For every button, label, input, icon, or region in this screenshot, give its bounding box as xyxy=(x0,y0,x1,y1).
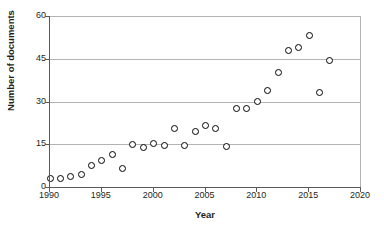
data-point xyxy=(109,151,116,158)
plot-area xyxy=(49,16,360,187)
y-tick-label-60: 60 xyxy=(6,11,46,20)
gridline-y-30 xyxy=(49,102,360,103)
y-tick-mark-60 xyxy=(45,16,49,17)
gridline-y-15 xyxy=(49,144,360,145)
data-point xyxy=(181,142,188,149)
data-point xyxy=(233,105,240,112)
y-tick-label-30: 30 xyxy=(6,97,46,106)
y-tick-label-15: 15 xyxy=(6,139,46,148)
y-axis-line xyxy=(49,16,50,187)
x-tick-label-1990: 1990 xyxy=(29,191,69,200)
x-axis-title: Year xyxy=(49,209,361,220)
x-tick-mark-2005 xyxy=(205,188,206,192)
data-point xyxy=(57,175,64,182)
data-point xyxy=(264,87,271,94)
y-tick-mark-45 xyxy=(45,59,49,60)
data-point xyxy=(326,57,333,64)
gridline-y-45 xyxy=(49,59,360,60)
x-tick-label-2010: 2010 xyxy=(236,191,276,200)
data-point xyxy=(161,142,168,149)
x-tick-label-2000: 2000 xyxy=(133,191,173,200)
plot-right-border xyxy=(360,16,361,187)
x-tick-mark-2015 xyxy=(308,188,309,192)
data-point xyxy=(150,140,157,147)
data-point xyxy=(254,98,261,105)
x-tick-mark-1995 xyxy=(101,188,102,192)
y-tick-label-45: 45 xyxy=(6,54,46,63)
y-tick-mark-30 xyxy=(45,102,49,103)
data-point xyxy=(223,143,230,150)
x-tick-label-2015: 2015 xyxy=(288,191,328,200)
data-point xyxy=(295,44,302,51)
data-point xyxy=(98,157,105,164)
scatter-chart: Number of documents 015304560 1990199520… xyxy=(0,0,384,232)
x-tick-mark-2010 xyxy=(256,188,257,192)
data-point xyxy=(88,162,95,169)
data-point xyxy=(67,173,74,180)
x-tick-mark-2000 xyxy=(153,188,154,192)
data-point xyxy=(192,128,199,135)
gridline-y-60 xyxy=(49,16,360,17)
data-point xyxy=(316,89,323,96)
data-point xyxy=(47,175,54,182)
data-point xyxy=(243,105,250,112)
data-point xyxy=(306,32,313,39)
x-tick-label-2020: 2020 xyxy=(340,191,380,200)
data-point xyxy=(202,122,209,129)
x-tick-label-1995: 1995 xyxy=(81,191,121,200)
x-tick-label-2005: 2005 xyxy=(185,191,225,200)
data-point xyxy=(129,141,136,148)
data-point xyxy=(78,171,85,178)
data-point xyxy=(119,165,126,172)
x-tick-mark-2020 xyxy=(360,188,361,192)
data-point xyxy=(171,125,178,132)
data-point xyxy=(285,47,292,54)
data-point xyxy=(275,69,282,76)
data-point xyxy=(140,144,147,151)
x-tick-mark-1990 xyxy=(49,188,50,192)
data-point xyxy=(212,125,219,132)
y-tick-mark-15 xyxy=(45,144,49,145)
